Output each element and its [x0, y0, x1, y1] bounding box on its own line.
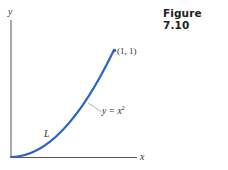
figure-plot: y x (1, 1) y = x2 L	[0, 0, 228, 170]
equation-text: y = x	[101, 106, 122, 116]
x-axis-label: x	[139, 151, 145, 162]
endpoint-label: (1, 1)	[117, 46, 137, 56]
equation-leader-line	[88, 103, 102, 112]
equation-label: y = x2	[101, 104, 125, 116]
y-axis-label: y	[7, 6, 13, 17]
equation-exponent: 2	[122, 104, 125, 111]
endpoint-dot	[113, 49, 117, 53]
parabola-curve	[11, 50, 114, 157]
arc-label: L	[43, 128, 50, 139]
